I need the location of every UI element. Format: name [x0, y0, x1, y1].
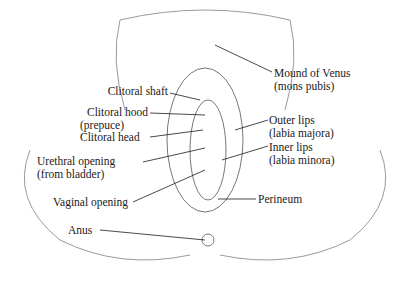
label-vaginal-opening: Vaginal opening	[53, 196, 128, 209]
label-text: Clitoral head	[80, 131, 140, 143]
label-subtext: (labia majora)	[269, 127, 334, 140]
label-subtext: (mons pubis)	[274, 80, 350, 93]
label-mons-pubis: Mound of Venus(mons pubis)	[274, 67, 350, 93]
label-text: Vaginal opening	[53, 196, 128, 208]
label-labia-minora: Inner lips(labia minora)	[269, 141, 334, 167]
label-text: Mound of Venus	[274, 67, 350, 80]
label-clitoral-hood: Clitoral hood	[40, 106, 148, 119]
label-subtext: (labia minora)	[269, 154, 334, 167]
label-perineum: Perineum	[258, 193, 302, 206]
label-urethral-opening: Urethral opening(from bladder)	[37, 155, 115, 181]
label-text: Clitoral shaft	[108, 85, 168, 97]
label-subtext: (from bladder)	[37, 168, 115, 181]
label-text: Urethral opening	[37, 155, 115, 168]
label-text: Clitoral hood	[40, 106, 148, 119]
label-anus: Anus	[68, 224, 92, 237]
label-text: Outer lips	[269, 114, 334, 127]
label-clitoral-shaft: Clitoral shaft	[62, 85, 168, 98]
label-clitoral-head: Clitoral head	[80, 131, 140, 144]
label-text: Anus	[68, 224, 92, 236]
label-text: Perineum	[258, 193, 302, 205]
anatomy-illustration	[0, 0, 411, 290]
label-labia-majora: Outer lips(labia majora)	[269, 114, 334, 140]
label-text: Inner lips	[269, 141, 334, 154]
